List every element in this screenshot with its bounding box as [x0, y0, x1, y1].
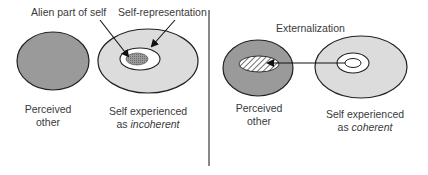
self-incoherent-label: Self experienced as incoherent — [105, 105, 191, 131]
as-prefix-right: as — [338, 121, 352, 133]
right-panel — [223, 36, 407, 98]
perceived-other-line2: other — [18, 116, 78, 129]
externalized-alien-part — [239, 56, 279, 72]
as-prefix: as — [116, 118, 130, 130]
self-representation-callout-label: Self-representation — [118, 6, 207, 19]
self-incoherent-line2: as incoherent — [105, 118, 191, 131]
self-core-right — [345, 59, 361, 68]
alien-part-of-self — [126, 53, 148, 65]
externalization-label: Externalization — [276, 22, 345, 35]
self-coherent-line2: as coherent — [322, 121, 408, 134]
self-coherent-line1: Self experienced — [322, 108, 408, 121]
incoherent-word: incoherent — [130, 118, 179, 130]
perceived-other-line1: Perceived — [18, 103, 78, 116]
perceived-other-right-line1: Perceived — [229, 102, 289, 115]
alien-part-callout-label: Alien part of self — [31, 6, 106, 19]
perceived-other-ellipse-left — [17, 32, 89, 90]
perceived-other-label-left: Perceived other — [18, 103, 78, 129]
perceived-other-label-right: Perceived other — [229, 102, 289, 128]
coherent-word: coherent — [352, 121, 393, 133]
self-incoherent-line1: Self experienced — [105, 105, 191, 118]
perceived-other-right-line2: other — [229, 115, 289, 128]
self-coherent-label: Self experienced as coherent — [322, 108, 408, 134]
left-panel — [17, 20, 198, 93]
diagram-canvas — [0, 0, 428, 175]
